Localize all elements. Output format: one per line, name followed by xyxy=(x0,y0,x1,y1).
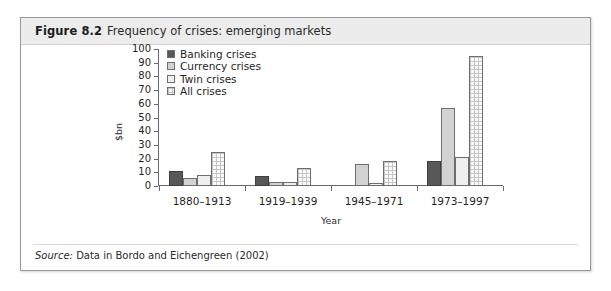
chart-legend: Banking crisesCurrency crisesTwin crises… xyxy=(167,48,261,97)
legend-item: Banking crises xyxy=(167,48,261,60)
bar xyxy=(169,171,183,186)
y-axis-tick-label: 0 xyxy=(125,181,151,191)
y-axis-tick-mark xyxy=(154,90,158,91)
bar xyxy=(427,161,441,186)
x-axis-tick-label: 1945–1971 xyxy=(345,195,404,207)
legend-swatch-icon xyxy=(167,62,175,70)
legend-swatch-icon xyxy=(167,75,175,83)
y-axis-tick-mark xyxy=(154,172,158,173)
legend-item: All crises xyxy=(167,86,261,98)
y-axis-tick-label: 50 xyxy=(125,113,151,123)
chart-plot-area: $bn 0102030405060708090100 Year Banking … xyxy=(21,45,592,241)
bar xyxy=(269,182,283,186)
y-axis-tick-label: 100 xyxy=(125,44,151,54)
legend-swatch-icon xyxy=(167,87,175,95)
y-axis-tick-label: 40 xyxy=(125,126,151,136)
x-axis-group-separator xyxy=(245,186,246,191)
y-axis-tick-label: 90 xyxy=(125,58,151,68)
y-axis-tick-label: 20 xyxy=(125,154,151,164)
figure-caption: Frequency of crises: emerging markets xyxy=(107,24,331,38)
x-axis-tick-label: 1919–1939 xyxy=(259,195,318,207)
source-text: Data in Bordo and Eichengreen (2002) xyxy=(76,250,269,261)
figure-title-band: Figure 8.2 Frequency of crises: emerging… xyxy=(21,18,590,45)
bar xyxy=(211,152,225,186)
y-axis-tick-mark xyxy=(154,118,158,119)
y-axis-title: $bn xyxy=(113,123,124,141)
bar xyxy=(441,108,455,186)
y-axis-tick-label: 10 xyxy=(125,167,151,177)
bar xyxy=(469,56,483,186)
y-axis-tick-mark xyxy=(154,49,158,50)
y-axis-tick-label: 30 xyxy=(125,140,151,150)
bar xyxy=(283,182,297,186)
x-axis-title: Year xyxy=(321,215,341,226)
y-axis-tick-label: 70 xyxy=(125,85,151,95)
figure-number: Figure 8.2 xyxy=(35,24,102,38)
legend-item: Twin crises xyxy=(167,73,261,85)
x-axis-group-separator xyxy=(159,186,160,191)
legend-label: All crises xyxy=(180,86,227,97)
bar xyxy=(383,161,397,186)
legend-label: Twin crises xyxy=(180,74,237,85)
bar xyxy=(355,164,369,186)
y-axis-tick-label: 80 xyxy=(125,71,151,81)
y-axis-tick-label: 60 xyxy=(125,99,151,109)
x-axis-tick-label: 1880–1913 xyxy=(173,195,232,207)
bar xyxy=(197,175,211,186)
y-axis-tick-mark xyxy=(154,131,158,132)
y-axis-tick-mark xyxy=(154,186,158,187)
y-axis-tick-mark xyxy=(154,145,158,146)
source-divider xyxy=(33,244,578,245)
bar-group xyxy=(417,49,503,186)
legend-label: Currency crises xyxy=(180,61,261,72)
bar xyxy=(183,178,197,186)
y-axis-tick-mark xyxy=(154,63,158,64)
source-label: Source: xyxy=(35,250,73,261)
y-axis-tick-mark xyxy=(154,159,158,160)
figure-frame: Figure 8.2 Frequency of crises: emerging… xyxy=(20,17,591,271)
bar xyxy=(369,183,383,186)
source-note: Source: Data in Bordo and Eichengreen (2… xyxy=(35,250,269,261)
legend-swatch-icon xyxy=(167,50,175,58)
x-axis-group-separator xyxy=(503,186,504,191)
x-axis-group-separator xyxy=(417,186,418,191)
y-axis-tick-labels: 0102030405060708090100 xyxy=(125,45,151,241)
legend-label: Banking crises xyxy=(180,49,256,60)
y-axis-tick-mark xyxy=(154,104,158,105)
bar xyxy=(255,176,269,186)
legend-item: Currency crises xyxy=(167,61,261,73)
x-axis-group-separator xyxy=(331,186,332,191)
y-axis-tick-mark xyxy=(154,76,158,77)
bar xyxy=(297,168,311,186)
x-axis-tick-label: 1973–1997 xyxy=(431,195,490,207)
bar xyxy=(455,157,469,186)
bar-group xyxy=(331,49,417,186)
